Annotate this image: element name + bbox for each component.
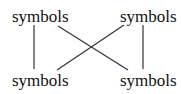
edge-top-left-to-bottom-right bbox=[58, 26, 128, 70]
diagram-canvas: symbols symbols symbols symbols bbox=[0, 0, 181, 94]
node-top-right: symbols bbox=[120, 8, 177, 25]
node-bottom-right: symbols bbox=[120, 72, 177, 89]
node-bottom-left: symbols bbox=[12, 72, 69, 89]
node-top-left: symbols bbox=[12, 8, 69, 25]
